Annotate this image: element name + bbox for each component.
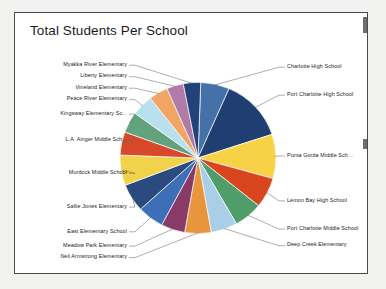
leader-line [129, 217, 151, 232]
page-background: Total Students Per School Charlotte High… [0, 0, 386, 289]
leader-line [129, 77, 175, 87]
pie-slice-label: Sallie Jones Elementary [67, 204, 127, 209]
pie-slice-label: Kingsway Elementary Sc... [60, 111, 127, 116]
leader-line [129, 100, 143, 106]
pie-slice-label: Lemon Bay High School [287, 198, 347, 203]
pie-chart: Charlotte High SchoolPort Charlotte High… [15, 13, 368, 274]
leader-line [129, 233, 198, 258]
pie-slice-label: Neil Armstrong Elementary [60, 254, 127, 259]
pie-slice-label: Punta Gorda Middle Sch... [287, 153, 353, 158]
scroll-mark-top [363, 17, 367, 33]
leader-line [248, 215, 285, 229]
leader-line [224, 229, 285, 246]
pie-slice-label: Peace River Elementary [67, 96, 127, 101]
pie-slice-label: Vineland Elementary [75, 85, 127, 90]
pie-slice-label: L.A. Ainger Middle Sch... [65, 137, 127, 142]
pie-slice-label: East Elementary School [67, 229, 127, 234]
leader-line [267, 193, 285, 201]
pie-slice-label: Myakka River Elementary [63, 62, 127, 67]
leader-line [255, 95, 285, 107]
leader-line [129, 88, 159, 93]
pie-slice-label: Meadow Park Elementary [63, 243, 127, 248]
leader-line [215, 67, 285, 85]
pie-slice-label: Liberty Elementary [80, 73, 127, 78]
pie-slice-label: Deep Creek Elementary [287, 242, 347, 247]
pie-slice-label: Port Charlotte Middle School [287, 226, 358, 231]
scroll-mark-middle [363, 139, 367, 149]
pie-chart-svg [15, 13, 368, 274]
document-frame: Total Students Per School Charlotte High… [14, 12, 368, 274]
pie-slice-label: Charlotte High School [287, 64, 342, 69]
pie-slice-label: Port Charlotte High School [287, 92, 353, 97]
pie-slice-label: Murdock Middle School [69, 170, 127, 175]
leader-line [129, 65, 192, 83]
